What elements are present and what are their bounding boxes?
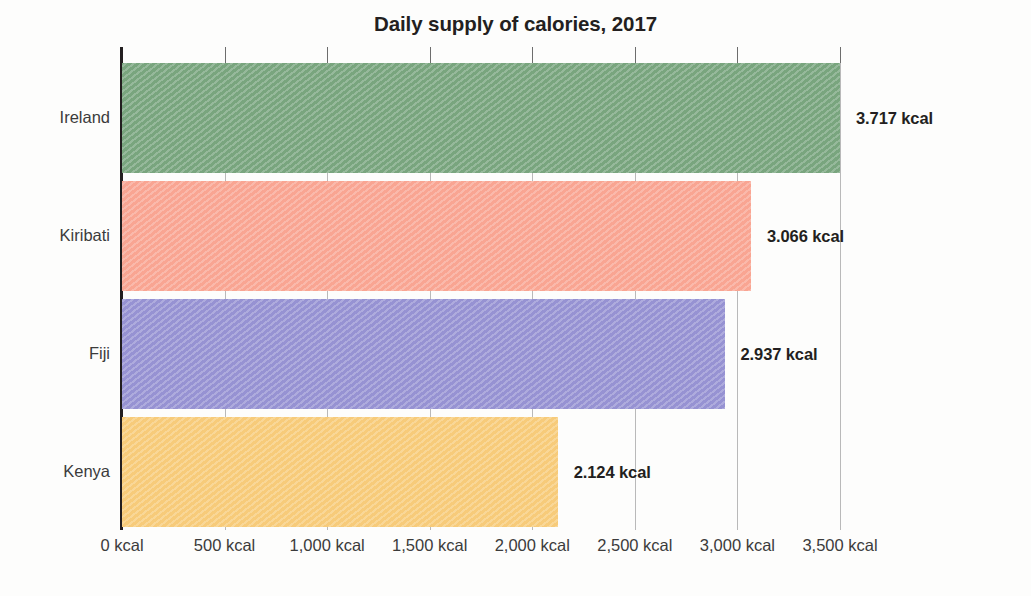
bar-fiji[interactable] (122, 299, 725, 409)
x-tick-label-500: 500 kcal (194, 536, 255, 555)
bar-value-label: 2.937 kcal (741, 345, 818, 364)
bar-ireland[interactable] (122, 63, 840, 173)
value-axis-tick-labels: 0 kcal500 kcal1,000 kcal1,500 kcal2,000 … (122, 536, 840, 564)
tick-mark-3000 (737, 47, 738, 63)
bar-value-label: 3.066 kcal (767, 227, 844, 246)
bar-kiribati[interactable] (122, 181, 751, 291)
chart-title: Daily supply of calories, 2017 (0, 12, 1031, 36)
tick-mark-500 (225, 47, 226, 63)
bar-value-label: 3.717 kcal (856, 109, 933, 128)
tick-mark-2000 (532, 47, 533, 63)
plot-area: 3.717 kcal3.066 kcal2.937 kcal2.124 kcal (122, 63, 840, 530)
x-tick-label-2500: 2,500 kcal (597, 536, 672, 555)
gridline-3500 (840, 63, 841, 530)
category-label-kiribati: Kiribati (0, 226, 110, 245)
bar-row: 2.124 kcal (122, 417, 840, 527)
bar-value-label: 2.124 kcal (574, 463, 651, 482)
bar-row: 2.937 kcal (122, 299, 840, 409)
tick-mark-2500 (635, 47, 636, 63)
tick-mark-1000 (327, 47, 328, 63)
category-axis: IrelandKiribatiFijiKenya (0, 63, 110, 530)
tick-mark-3500 (840, 47, 841, 63)
value-axis-top-stub (120, 47, 123, 63)
x-tick-label-3500: 3,500 kcal (802, 536, 877, 555)
bar-row: 3.717 kcal (122, 63, 840, 173)
chart-container: Daily supply of calories, 2017 IrelandKi… (0, 0, 1031, 596)
category-label-fiji: Fiji (0, 344, 110, 363)
bar-kenya[interactable] (122, 417, 558, 527)
x-tick-label-1500: 1,500 kcal (392, 536, 467, 555)
category-label-ireland: Ireland (0, 108, 110, 127)
x-tick-label-2000: 2,000 kcal (495, 536, 570, 555)
x-tick-label-0: 0 kcal (100, 536, 143, 555)
x-tick-label-3000: 3,000 kcal (700, 536, 775, 555)
category-label-kenya: Kenya (0, 462, 110, 481)
x-tick-label-1000: 1,000 kcal (290, 536, 365, 555)
bar-row: 3.066 kcal (122, 181, 840, 291)
tick-mark-1500 (430, 47, 431, 63)
